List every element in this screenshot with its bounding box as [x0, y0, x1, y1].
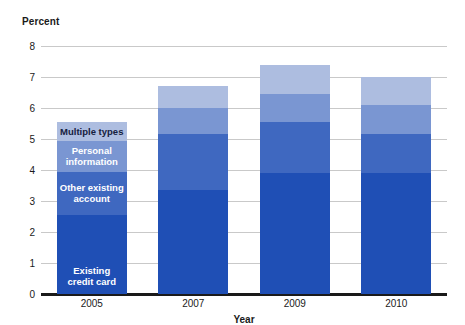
series-label-personal-information: Personalinformation: [64, 145, 120, 167]
bar-segment-personal-information[interactable]: Personalinformation: [57, 141, 127, 172]
series-label-other-existing-account: Other existingaccount: [58, 182, 126, 204]
y-axis-title: Percent: [22, 16, 59, 27]
bar-segment-existing-credit-card[interactable]: [158, 190, 228, 294]
bar-segment-personal-information[interactable]: [361, 105, 431, 134]
series-label-multiple-types: Multiple types: [58, 126, 125, 137]
bar-segment-existing-credit-card[interactable]: [260, 173, 330, 294]
y-axis-tick-label: 5: [29, 134, 35, 145]
bar-segment-other-existing-account[interactable]: Other existingaccount: [57, 172, 127, 215]
y-axis-tick-label: 7: [29, 72, 35, 83]
y-axis-tick-label: 4: [29, 165, 35, 176]
y-axis-tick-label: 2: [29, 227, 35, 238]
bar-2009[interactable]: [260, 65, 330, 294]
bar-segment-existing-credit-card[interactable]: [361, 173, 431, 294]
plot-area: 012345678Existingcredit cardOther existi…: [41, 46, 447, 294]
bar-segment-other-existing-account[interactable]: [158, 134, 228, 190]
bar-segment-multiple-types[interactable]: [260, 65, 330, 94]
bar-segment-multiple-types[interactable]: [158, 86, 228, 108]
x-axis-title: Year: [41, 314, 447, 325]
x-axis-tick-label: 2010: [385, 298, 407, 309]
bar-segment-multiple-types[interactable]: Multiple types: [57, 122, 127, 141]
bar-segment-existing-credit-card[interactable]: Existingcredit card: [57, 215, 127, 294]
bar-segment-multiple-types[interactable]: [361, 77, 431, 105]
y-axis-tick-label: 6: [29, 103, 35, 114]
series-label-existing-credit-card: Existingcredit card: [65, 265, 118, 287]
y-axis-tick-label: 8: [29, 41, 35, 52]
bar-2007[interactable]: [158, 86, 228, 294]
bar-segment-other-existing-account[interactable]: [260, 122, 330, 173]
x-axis-tick-label: 2005: [81, 298, 103, 309]
bar-segment-other-existing-account[interactable]: [361, 134, 431, 173]
y-axis-tick-label: 0: [29, 289, 35, 300]
bar-2005[interactable]: Existingcredit cardOther existingaccount…: [57, 122, 127, 294]
bar-segment-personal-information[interactable]: [260, 94, 330, 122]
y-axis-tick-label: 3: [29, 196, 35, 207]
x-axis-tick-label: 2007: [182, 298, 204, 309]
bar-2010[interactable]: [361, 77, 431, 294]
gridline: [41, 46, 447, 47]
bar-segment-personal-information[interactable]: [158, 108, 228, 134]
y-axis-tick-label: 1: [29, 258, 35, 269]
x-axis-tick-label: 2009: [284, 298, 306, 309]
